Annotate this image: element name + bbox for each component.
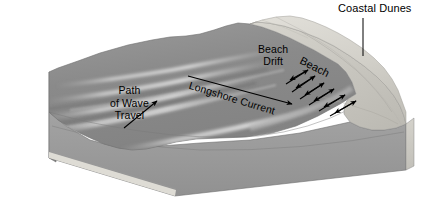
block-right-face [406, 118, 414, 170]
label-wave-travel-line3: Travel [110, 109, 149, 122]
label-coastal-dunes: Coastal Dunes [338, 3, 411, 15]
label-beach-drift-line2: Drift [258, 55, 288, 67]
label-wave-travel-line1: Path [110, 84, 149, 97]
label-beach-drift: Beach Drift [258, 43, 288, 67]
coastal-diagram: Coastal Dunes Beach Drift Beach Longshor… [0, 0, 442, 203]
label-beach-drift-line1: Beach [258, 43, 288, 55]
label-wave-travel-line2: of Wave [110, 97, 149, 110]
label-path-of-wave-travel: Path of Wave Travel [110, 84, 149, 122]
